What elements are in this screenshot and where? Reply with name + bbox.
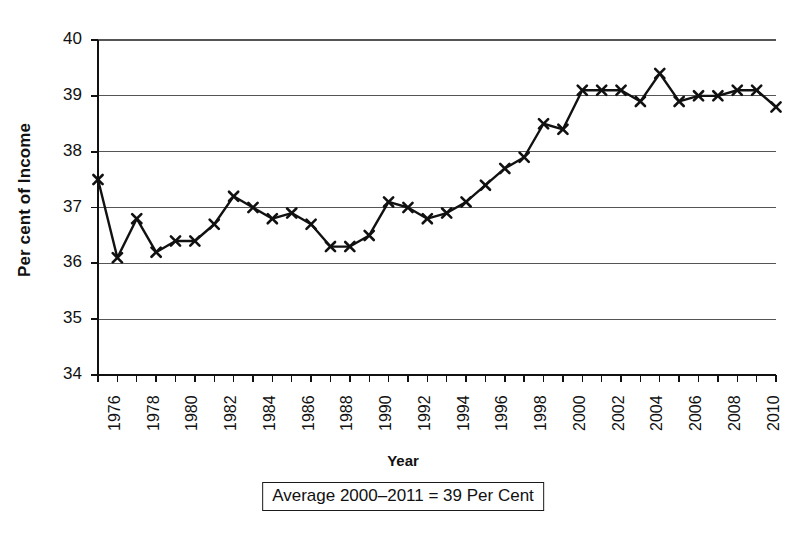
x-tick-label: 2000 [571, 371, 589, 431]
x-tick-label: 2006 [687, 371, 705, 431]
x-tick-label: 1998 [532, 371, 550, 431]
x-axis-title: Year [0, 452, 806, 469]
data-point-marker [306, 220, 315, 229]
chart-container: Per cent of Income 34353637383940 197619… [0, 0, 806, 544]
x-tick-label: 1982 [222, 371, 240, 431]
data-point-marker [132, 214, 141, 223]
x-tick-label: 2010 [765, 371, 783, 431]
data-point-marker [520, 153, 529, 162]
x-tick-label: 1990 [377, 371, 395, 431]
x-tick-label: 1988 [338, 371, 356, 431]
y-tick-label: 35 [42, 308, 82, 328]
data-point-marker [152, 248, 161, 257]
average-annotation-box: Average 2000–2011 = 39 Per Cent [262, 482, 544, 511]
data-point-marker [500, 164, 509, 173]
x-tick-label: 1996 [493, 371, 511, 431]
data-point-marker [481, 181, 490, 190]
y-tick-label: 40 [42, 29, 82, 49]
data-point-marker [636, 97, 645, 106]
x-tick-label: 1980 [183, 371, 201, 431]
y-tick-label: 36 [42, 252, 82, 272]
data-point-marker [229, 192, 238, 201]
gridlines [98, 40, 776, 319]
x-tick-label: 1994 [455, 371, 473, 431]
x-tick-label: 2002 [610, 371, 628, 431]
y-tick-label: 37 [42, 197, 82, 217]
data-point-marker [461, 197, 470, 206]
x-tick-label: 1984 [261, 371, 279, 431]
data-point-marker [365, 231, 374, 240]
x-tick-label: 2008 [726, 371, 744, 431]
data-point-marker [771, 102, 780, 111]
x-tick-label: 1978 [145, 371, 163, 431]
x-tick-label: 1986 [300, 371, 318, 431]
data-point-marker [210, 220, 219, 229]
data-point-marker [655, 69, 664, 78]
y-tick-label: 34 [42, 364, 82, 384]
x-tick-label: 1992 [416, 371, 434, 431]
x-tick-label: 2004 [648, 371, 666, 431]
data-series-line [98, 74, 776, 258]
x-tick-label: 1976 [106, 371, 124, 431]
y-tick-label: 38 [42, 141, 82, 161]
y-tick-label: 39 [42, 85, 82, 105]
